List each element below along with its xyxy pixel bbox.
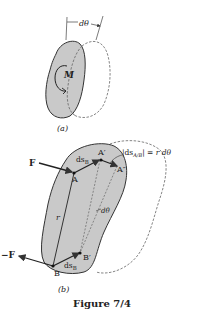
point-B-label: B (54, 269, 60, 278)
reference-line-left (66, 17, 67, 40)
angle-label-a: dθ (79, 19, 89, 28)
moment-label: M (63, 70, 75, 80)
figure-drawing: dθ M (a) (0, 0, 204, 313)
panel-a: dθ M (a) (46, 16, 110, 133)
point-A-label: A (71, 175, 78, 184)
point-A-prime-label: A′ (97, 148, 106, 157)
neg-force-label: −F (1, 250, 16, 260)
reference-line-right (96, 16, 103, 40)
figure-7-4: dθ M (a) (0, 0, 204, 313)
point-A-double-prime-label: A″ (116, 165, 126, 174)
point-B-prime-label: B′ (83, 253, 91, 262)
angle-label-b: dθ (101, 207, 110, 215)
panel-b-label: (b) (58, 285, 69, 294)
panel-a-label: (a) (57, 124, 68, 133)
figure-caption: Figure 7/4 (0, 298, 204, 309)
force-label: F (29, 158, 36, 168)
relation-label: |dsA/B| = r dθ (122, 148, 172, 158)
panel-b: F −F A A′ A″ B B′ r dθ dsB dsB |dsA/B| =… (1, 141, 172, 294)
